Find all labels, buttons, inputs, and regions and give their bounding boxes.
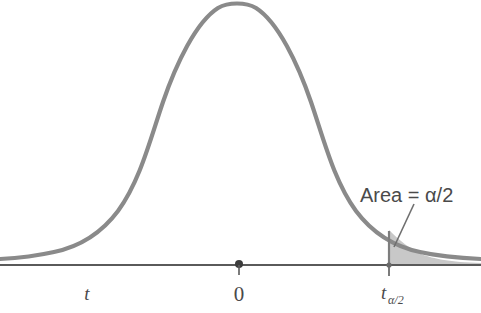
zero-tick-label: 0 <box>234 282 245 306</box>
t-alpha-half-tick-label: t α/2 <box>381 282 404 307</box>
t-alpha-half-base: t <box>381 282 387 303</box>
t-alpha-half-subscript: α/2 <box>388 293 404 307</box>
figure-root: Area = α/2 t 0 t α/2 <box>0 0 481 313</box>
t-distribution-figure: Area = α/2 t 0 t α/2 <box>0 0 481 313</box>
critical-value-dot <box>386 262 391 267</box>
t-distribution-curve <box>0 4 481 260</box>
t-axis-label: t <box>84 283 90 304</box>
area-annotation-label: Area = α/2 <box>360 184 453 206</box>
leader-line <box>394 204 414 247</box>
